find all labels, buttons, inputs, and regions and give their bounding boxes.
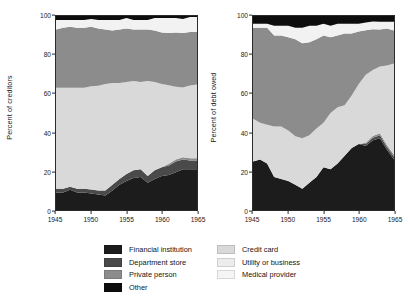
y-tick-label: 0 [47, 208, 51, 215]
legend-label: Financial institution [129, 245, 192, 254]
y-tick-label: 40 [44, 129, 51, 136]
y-axis-label-creditors: Percent of creditors [2, 0, 16, 215]
y-tick-mark [52, 171, 55, 172]
y-tick-mark [249, 93, 252, 94]
y-tick-label: 100 [237, 12, 248, 19]
x-tick-label: 1965 [191, 216, 206, 223]
x-tick-label: 1950 [280, 216, 295, 223]
x-tick-mark [162, 211, 163, 214]
y-tick-label: 20 [241, 168, 248, 175]
y-axis-label-debt: Percent of debt owed [207, 0, 221, 215]
area-band [56, 27, 197, 88]
legend-label: Private person [129, 270, 177, 279]
x-tick-label: 1945 [245, 216, 260, 223]
stacked-area-debt [253, 16, 394, 210]
x-tick-mark [90, 211, 91, 214]
legend: Financial institutionDepartment storePri… [104, 244, 404, 294]
y-tick-mark [249, 132, 252, 133]
y-tick-label: 80 [241, 51, 248, 58]
y-tick-label: 80 [44, 51, 51, 58]
legend-item: Financial institution [104, 244, 192, 255]
x-tick-mark [395, 211, 396, 214]
plot-canvas-creditors [55, 15, 198, 211]
y-tick-label: 60 [44, 90, 51, 97]
y-tick-mark [52, 93, 55, 94]
legend-swatch [104, 258, 122, 267]
legend-item: Private person [104, 269, 192, 280]
y-tick-mark [249, 171, 252, 172]
x-tick-mark [198, 211, 199, 214]
panel-debt: Percent of debt owed 0204060801001945195… [205, 0, 410, 245]
x-tick-mark [126, 211, 127, 214]
plot-area-debt: 02040608010019451950195519601965 [252, 15, 395, 211]
legend-column-primary: Financial institutionDepartment storePri… [104, 244, 192, 294]
stacked-area-creditors [56, 16, 197, 210]
y-tick-label: 0 [244, 208, 248, 215]
y-tick-mark [52, 132, 55, 133]
legend-label: Credit card [242, 245, 278, 254]
legend-item: Utility or business [217, 257, 300, 268]
legend-label: Medical provider [242, 270, 296, 279]
legend-item: Credit card [217, 244, 300, 255]
x-tick-label: 1955 [316, 216, 331, 223]
y-tick-label: 20 [44, 168, 51, 175]
y-tick-label: 60 [241, 90, 248, 97]
legend-swatch [104, 283, 122, 292]
legend-item: Other [104, 282, 192, 293]
legend-swatch [217, 258, 235, 267]
y-tick-mark [52, 54, 55, 55]
legend-swatch [217, 245, 235, 254]
y-tick-mark [52, 15, 55, 16]
y-tick-mark [249, 54, 252, 55]
chart-figure: Percent of creditors 0204060801001945195… [0, 0, 410, 307]
y-tick-label: 100 [40, 12, 51, 19]
x-tick-label: 1960 [155, 216, 170, 223]
x-tick-label: 1945 [48, 216, 63, 223]
legend-swatch [104, 270, 122, 279]
x-tick-mark [252, 211, 253, 214]
x-tick-label: 1955 [119, 216, 134, 223]
legend-label: Department store [129, 258, 186, 267]
plot-canvas-debt [252, 15, 395, 211]
x-tick-label: 1950 [83, 216, 98, 223]
x-tick-mark [359, 211, 360, 214]
plot-area-creditors: 02040608010019451950195519601965 [55, 15, 198, 211]
y-tick-mark [249, 15, 252, 16]
legend-swatch [104, 245, 122, 254]
x-tick-label: 1965 [388, 216, 403, 223]
x-tick-label: 1960 [352, 216, 367, 223]
legend-label: Utility or business [242, 258, 300, 267]
x-tick-mark [55, 211, 56, 214]
x-tick-mark [287, 211, 288, 214]
legend-item: Medical provider [217, 269, 300, 280]
y-tick-label: 40 [241, 129, 248, 136]
legend-column-secondary: Credit cardUtility or businessMedical pr… [217, 244, 300, 282]
legend-swatch [217, 270, 235, 279]
x-tick-mark [323, 211, 324, 214]
panel-creditors: Percent of creditors 0204060801001945195… [0, 0, 205, 245]
legend-item: Department store [104, 257, 192, 268]
legend-label: Other [129, 283, 147, 292]
